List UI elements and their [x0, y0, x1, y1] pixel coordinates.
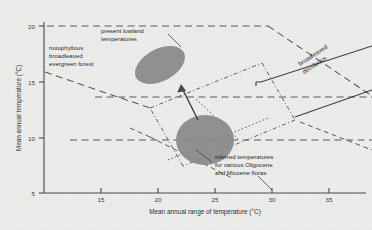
- label-inferred-line2: for various Oligocene: [215, 161, 273, 168]
- label-notophyllous-line1: notophyllous: [49, 44, 83, 51]
- data-blobs: [129, 38, 234, 165]
- y-ticklabel-5: 5: [32, 190, 36, 197]
- label-notophyllous-line3: evergreen forest: [49, 60, 94, 67]
- y-ticklabel-15: 15: [28, 79, 35, 86]
- label-inferred-line1: inferred temperatures: [215, 153, 273, 160]
- climate-space-figure: 20 15 10 5 15 20 25 30 35 Mean annual ra…: [0, 0, 372, 230]
- boundary-right-dashed: [300, 122, 372, 150]
- parallelogram-right-edge: [262, 63, 295, 120]
- y-ticklabel-20: 20: [28, 23, 35, 30]
- label-inferred-line3: and Miocene floras: [215, 169, 267, 176]
- x-ticklabel-20: 20: [155, 196, 162, 203]
- shift-arrow: [177, 84, 198, 120]
- boundary-left-dashed: [45, 72, 150, 108]
- x-ticklabel-30: 30: [269, 196, 276, 203]
- annotations: notophyllous broadleaved evergreen fores…: [49, 27, 328, 190]
- x-ticklabel-15: 15: [98, 196, 105, 203]
- label-present-lowland-line1: present lowland: [101, 27, 144, 34]
- blob-present-lowland[interactable]: [129, 38, 192, 92]
- boundary-lower-left-dashed-2: [130, 128, 150, 137]
- leader-top-right: [258, 176, 272, 190]
- x-ticklabel-25: 25: [212, 196, 219, 203]
- label-present-lowland-line2: temperatures: [101, 35, 137, 42]
- plot-area: 20 15 10 5 15 20 25 30 35 Mean annual ra…: [0, 0, 372, 230]
- shift-arrow-head: [177, 84, 186, 93]
- y-ticklabel-10: 10: [28, 135, 35, 142]
- leader-present-lowland: [168, 34, 181, 47]
- x-ticklabel-35: 35: [326, 196, 333, 203]
- deciduous-boundary-lower: [295, 90, 372, 117]
- x-axis-title: Mean annual range of temperature (°C): [149, 208, 261, 216]
- y-axis-title: Mean annual temperature (°C): [15, 65, 23, 151]
- label-notophyllous-line2: broadleaved: [49, 52, 83, 59]
